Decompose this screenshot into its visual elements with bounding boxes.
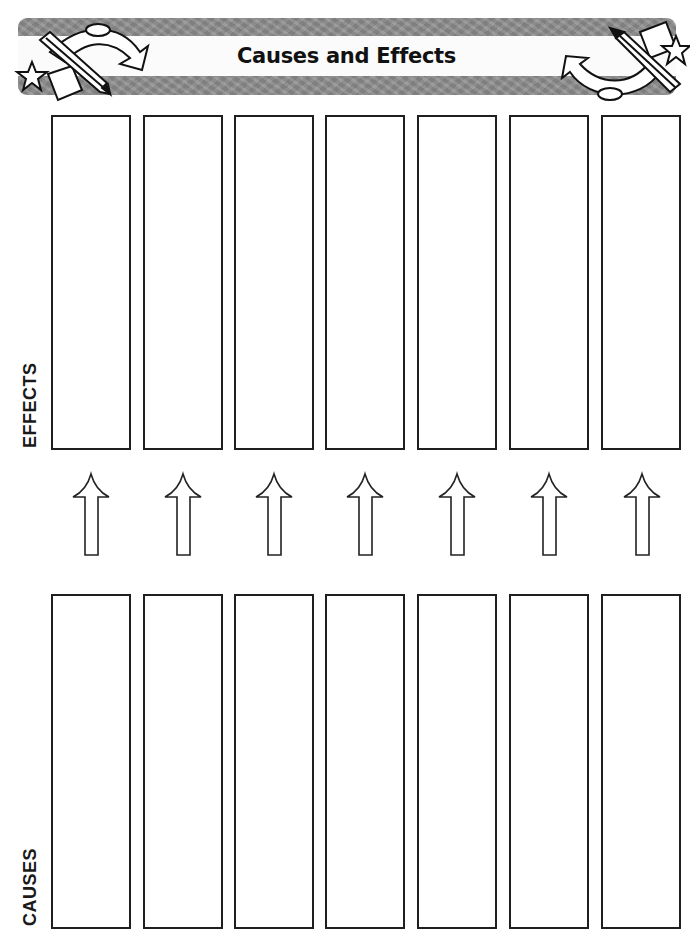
effect-box-7[interactable] <box>601 115 681 450</box>
up-arrow-icon <box>254 471 294 557</box>
star-icon <box>17 62 47 90</box>
effect-box-5[interactable] <box>417 115 497 450</box>
effect-box-1[interactable] <box>51 115 131 450</box>
cause-box-3[interactable] <box>234 594 314 929</box>
up-arrow-icon <box>163 471 203 557</box>
effect-box-6[interactable] <box>509 115 589 450</box>
pencil-arrow-decoration-right <box>530 12 690 102</box>
up-arrow-icon <box>529 471 569 557</box>
cause-box-2[interactable] <box>143 594 223 929</box>
up-arrow-icon <box>345 471 385 557</box>
up-arrow-icon <box>437 471 477 557</box>
causes-label: CAUSES <box>20 848 41 926</box>
cause-box-5[interactable] <box>417 594 497 929</box>
cause-box-7[interactable] <box>601 594 681 929</box>
effect-box-3[interactable] <box>234 115 314 450</box>
effects-label: EFFECTS <box>20 362 41 448</box>
effect-box-4[interactable] <box>325 115 405 450</box>
up-arrow-icon <box>71 471 111 557</box>
effect-box-2[interactable] <box>143 115 223 450</box>
cause-box-6[interactable] <box>509 594 589 929</box>
up-arrow-icon <box>622 471 662 557</box>
pencil-arrow-decoration-left <box>10 12 160 102</box>
cause-box-4[interactable] <box>325 594 405 929</box>
cause-box-1[interactable] <box>51 594 131 929</box>
